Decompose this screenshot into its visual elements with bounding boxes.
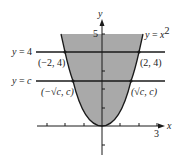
point-label-neg2-4: (−2, 4) bbox=[38, 57, 65, 69]
x-axis-label: x bbox=[166, 120, 172, 131]
x-axis-arrow-icon bbox=[158, 124, 165, 129]
point-label-neg-sqrtc-c: (−√c, c) bbox=[41, 86, 74, 98]
y-axis-label: y bbox=[97, 8, 103, 19]
parabola-diagram: y 5 x 3 y = x2 y = 4 y = c (−2, 4) (2, 4… bbox=[0, 0, 182, 159]
line-label-y4: y = 4 bbox=[11, 46, 32, 57]
line-label-yc: y = c bbox=[11, 75, 32, 86]
y-axis-arrow-icon bbox=[100, 19, 105, 26]
y-tick-label-5: 5 bbox=[93, 28, 98, 39]
point-label-sqrtc-c: (√c, c) bbox=[131, 86, 158, 98]
x-tick-label-3: 3 bbox=[154, 128, 159, 139]
point-label-2-4: (2, 4) bbox=[140, 57, 162, 69]
curve-label: y = x2 bbox=[144, 25, 170, 40]
